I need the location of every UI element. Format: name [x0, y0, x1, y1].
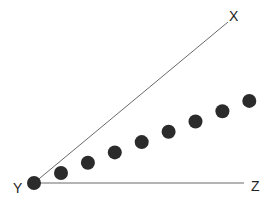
dot-series [54, 94, 256, 180]
point-dot-1 [54, 166, 68, 180]
point-dot-2 [81, 156, 95, 170]
point-dot-6 [189, 115, 203, 129]
label-x: X [229, 8, 239, 24]
point-dot-3 [108, 145, 122, 159]
vertex-y-dot [27, 176, 41, 190]
point-dot-8 [242, 94, 256, 108]
ray-yx [34, 22, 228, 183]
label-y: Y [13, 180, 23, 196]
point-dot-7 [215, 104, 229, 118]
point-dot-5 [162, 125, 176, 139]
angle-diagram: X Y Z [0, 0, 272, 207]
label-z: Z [251, 178, 260, 194]
point-dot-4 [135, 135, 149, 149]
